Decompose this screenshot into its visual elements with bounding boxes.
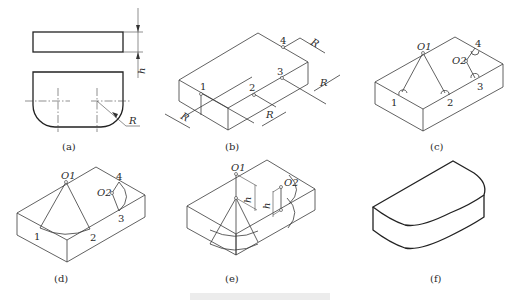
panel-d: O1 O2 1 2 3 4 (d) [17, 167, 145, 284]
panel-label-e: (e) [225, 273, 239, 284]
panel-label-a: (a) [62, 141, 76, 152]
panel-label-f: (f) [430, 273, 442, 284]
point-3-label: 3 [277, 66, 283, 77]
figure-caption [190, 293, 330, 300]
point-1 [200, 93, 203, 96]
center-o1-label: O1 [417, 41, 432, 52]
panel-label-d: (d) [54, 273, 68, 284]
point-2-label: 2 [249, 82, 255, 93]
center-o1-lower [235, 197, 238, 200]
e-ext-o1-top [236, 174, 257, 186]
panel-e: O1 O2 h h (e) [187, 160, 315, 284]
point-4-label: 4 [280, 35, 286, 46]
center-o2-lower [280, 209, 283, 212]
box-top-face [17, 167, 145, 240]
center-o2 [280, 186, 283, 189]
radius-label: R [128, 115, 137, 126]
panel-a: R h (a) [25, 8, 147, 152]
point-1-label: 1 [391, 97, 397, 108]
point-3-label: 3 [477, 81, 483, 92]
d-line-o1-1 [40, 182, 66, 228]
figure-canvas: R h (a) 1 2 3 4 R R R R (b) [0, 0, 516, 303]
height-label: h [136, 68, 147, 74]
box-left-face [375, 82, 423, 131]
point-4-label: 4 [116, 171, 122, 182]
point-3-label: 3 [118, 213, 124, 224]
height-label-2: h [261, 203, 272, 209]
radius-label-left: R [178, 110, 191, 124]
point-4-label: 4 [475, 38, 481, 49]
panel-c: O1 O2 1 2 3 4 (c) [375, 37, 503, 152]
panel-b: 1 2 3 4 R R R R (b) [165, 33, 340, 152]
c-line-o1-2 [423, 53, 445, 93]
radius-label-front: R [265, 109, 274, 120]
point-2 [253, 94, 256, 97]
front-view-rounded-rect [33, 72, 123, 127]
point-1-label: 1 [200, 81, 206, 92]
point-2-label: 2 [90, 232, 96, 243]
panel-f: (f) [373, 161, 485, 284]
top-view-rect [33, 32, 123, 52]
center-o2-label: O2 [452, 55, 467, 66]
b-construct-4 [185, 77, 252, 116]
center-o1-label: O1 [61, 170, 76, 181]
c-line-o1-1 [402, 53, 423, 92]
radius-label-top: R [308, 36, 321, 50]
point-2-label: 2 [447, 97, 453, 108]
d-line-o1-2 [66, 182, 90, 229]
radius-label-right: R [319, 77, 328, 88]
height-label-1: h [242, 197, 253, 203]
d-line-o2-4 [112, 182, 119, 193]
panel-label-c: (c) [430, 141, 444, 152]
point-1-label: 1 [34, 231, 40, 242]
center-o1-label: O1 [231, 162, 246, 173]
b-construct-3 [254, 94, 276, 107]
box-left-face [17, 213, 67, 262]
center-o2-label: O2 [97, 187, 112, 198]
panel-label-b: (b) [225, 141, 239, 152]
height-arrow-bottom [136, 52, 140, 59]
height-arrow-top [136, 25, 140, 32]
center-o2-label: O2 [284, 177, 299, 188]
c-line-o2-3 [466, 61, 475, 78]
solid-top-face [373, 161, 485, 226]
box-right-face [67, 195, 145, 262]
d-line-o2-3 [112, 193, 119, 211]
